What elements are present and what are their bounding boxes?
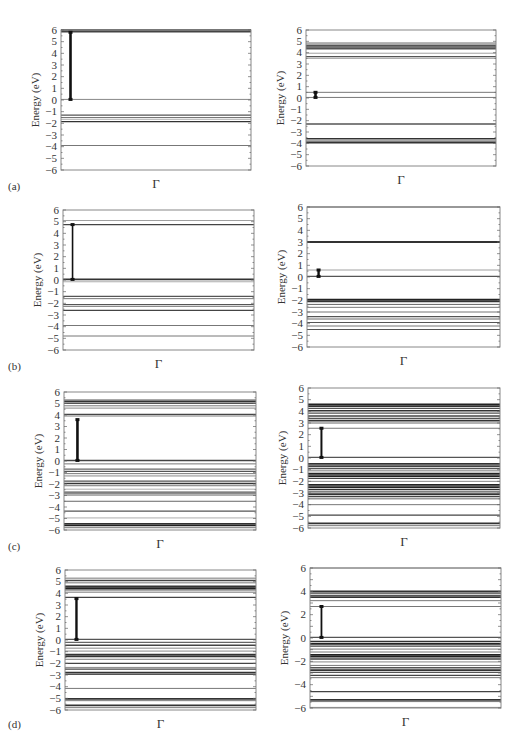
band-plot-c-right: 6543210−1−2−3−4−5−6Energy (eV)Γ (276, 382, 500, 549)
energy-bands (63, 221, 254, 337)
x-axis-label-gamma: Γ (157, 716, 165, 731)
y-tick-label: 1 (55, 443, 61, 455)
y-tick-label: 6 (56, 564, 62, 576)
y-tick-label: 1 (299, 440, 305, 452)
band-plot-b-left: 6543210−1−2−3−4−5−6Energy (eV)Γ(b) (8, 204, 254, 373)
y-tick-label: −5 (290, 148, 302, 160)
y-tick-label: 5 (55, 397, 61, 409)
y-tick-label: 5 (298, 212, 304, 224)
y-tick-label: −4 (48, 501, 60, 513)
plot-frame (61, 30, 251, 170)
panel-label: (b) (8, 360, 21, 373)
x-axis-label-gamma: Γ (152, 176, 160, 191)
x-axis-label-gamma: Γ (400, 353, 408, 368)
band-plot-d-right: 6420−2−4−6Energy (eV)Γ (278, 562, 501, 729)
y-tick-label: −4 (47, 320, 59, 332)
band-plot-b-right: 6543210−1−2−3−4−5−6Energy (eV)Γ (275, 201, 500, 368)
y-tick-label: −6 (292, 522, 304, 534)
y-tick-label: −2 (49, 657, 61, 669)
y-tick-label: 4 (298, 224, 304, 236)
x-axis-label-gamma: Γ (156, 536, 164, 551)
y-tick-label: 2 (55, 432, 61, 444)
y-axis-label: Energy (eV) (33, 612, 46, 667)
y-tick-label: 3 (56, 599, 62, 611)
y-tick-label: 6 (55, 386, 61, 398)
y-tick-label: −2 (294, 655, 306, 667)
y-tick-label: 3 (52, 59, 58, 71)
y-tick-label: −2 (290, 114, 302, 126)
y-tick-label: 4 (301, 585, 307, 597)
energy-bands (306, 43, 496, 143)
y-tick-label: −5 (292, 510, 304, 522)
x-axis-label-gamma: Γ (397, 172, 405, 187)
y-axis-label: Energy (eV) (31, 252, 44, 307)
y-tick-label: −5 (45, 152, 57, 164)
y-tick-label: −2 (45, 117, 57, 129)
y-tick-label: 4 (297, 46, 303, 58)
y-tick-label: −1 (292, 463, 304, 475)
y-tick-label: 2 (301, 608, 307, 620)
y-tick-label: 1 (297, 80, 303, 92)
y-tick-label: −5 (47, 332, 59, 344)
panel-label: (d) (8, 718, 21, 731)
y-tick-label: −6 (48, 524, 60, 536)
y-tick-label: 0 (297, 92, 303, 104)
y-tick-label: −1 (291, 282, 303, 294)
energy-bands (308, 404, 500, 525)
band-gap-arrow (71, 223, 75, 281)
band-plot-c-left: 6543210−1−2−3−4−5−6Energy (eV)Γ(c) (8, 386, 256, 553)
y-tick-label: 3 (297, 58, 303, 70)
y-tick-label: 6 (299, 382, 305, 394)
panels-container: 6543210−1−2−3−4−5−6Energy (eV)Γ(a)654321… (8, 24, 501, 731)
y-tick-label: 4 (299, 405, 305, 417)
y-tick-label: 6 (52, 24, 58, 36)
energy-bands (61, 30, 251, 146)
x-axis-label-gamma: Γ (155, 356, 163, 371)
band-gap-arrow (74, 597, 78, 641)
band-plot-d-left: 6543210−1−2−3−4−5−6Energy (eV)Γ(d) (8, 564, 256, 731)
y-tick-label: 2 (299, 428, 305, 440)
y-tick-label: 6 (301, 562, 307, 574)
y-tick-label: −4 (292, 498, 304, 510)
y-tick-label: 4 (56, 587, 62, 599)
y-tick-label: −4 (294, 678, 306, 690)
y-tick-label: −3 (291, 306, 303, 318)
band-gap-arrow (69, 31, 73, 101)
energy-bands (64, 400, 256, 528)
y-axis-label: Energy (eV) (274, 70, 287, 125)
y-tick-label: 3 (54, 239, 60, 251)
y-tick-label: −3 (48, 489, 60, 501)
y-tick-label: 1 (52, 82, 58, 94)
y-tick-label: 3 (299, 417, 305, 429)
y-tick-label: −2 (291, 294, 303, 306)
y-tick-label: 2 (56, 610, 62, 622)
y-tick-label: −6 (49, 704, 61, 716)
y-tick-label: 3 (298, 236, 304, 248)
y-axis-label: Energy (eV) (276, 430, 289, 485)
y-tick-label: 4 (54, 227, 60, 239)
y-tick-label: 0 (301, 632, 307, 644)
band-plot-a-left: 6543210−1−2−3−4−5−6Energy (eV)Γ(a) (8, 24, 251, 193)
y-tick-label: 0 (298, 271, 304, 283)
y-tick-label: 5 (54, 215, 60, 227)
y-axis-label: Energy (eV) (32, 433, 45, 488)
y-tick-label: −1 (49, 645, 61, 657)
band-gap-arrow (319, 605, 323, 639)
y-tick-label: −3 (47, 309, 59, 321)
y-tick-label: 1 (298, 259, 304, 271)
y-tick-label: 3 (55, 420, 61, 432)
y-tick-label: −5 (291, 329, 303, 341)
energy-bands (307, 207, 500, 330)
y-tick-label: −4 (49, 680, 61, 692)
y-axis-label: Energy (eV) (275, 249, 288, 304)
y-tick-label: −6 (294, 702, 306, 714)
y-tick-label: 6 (54, 204, 60, 216)
y-tick-label: −2 (47, 297, 59, 309)
y-tick-label: 1 (56, 622, 62, 634)
y-tick-label: −5 (48, 512, 60, 524)
y-tick-label: 2 (54, 250, 60, 262)
band-gap-arrow (314, 91, 318, 99)
panel-label: (c) (8, 540, 21, 553)
y-tick-label: 5 (52, 35, 58, 47)
y-tick-label: 5 (297, 35, 303, 47)
